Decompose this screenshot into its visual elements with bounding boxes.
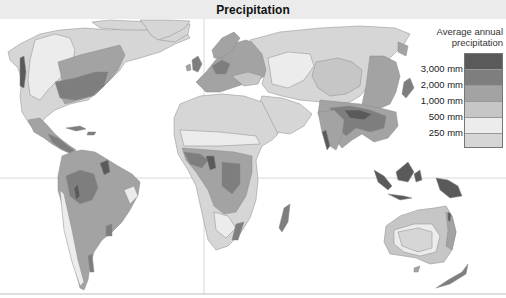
legend-title-line1: Average annual [418, 26, 503, 37]
legend-swatches [464, 53, 503, 148]
map-title: Precipitation [216, 2, 290, 17]
title-bar: Precipitation [0, 0, 506, 19]
indonesia [374, 162, 462, 200]
legend-title: Average annual precipitation [418, 26, 504, 48]
legend-body: 3,000 mm 2,000 mm 1,000 mm 500 mm 250 mm [418, 53, 504, 145]
swatch-500-1000 [465, 102, 502, 118]
legend-title-line2: precipitation [418, 37, 503, 48]
precipitation-legend: Average annual precipitation 3,000 mm 2,… [418, 26, 504, 145]
swatch-250-500 [465, 118, 502, 134]
legend-label-3000: 3,000 mm [421, 63, 463, 74]
legend-label-500: 500 mm [429, 111, 463, 122]
swatch-over-3000 [465, 54, 502, 70]
north-america [8, 20, 190, 154]
south-america [58, 150, 140, 290]
swatch-1000-2000 [465, 86, 502, 102]
swatch-2000-3000 [465, 70, 502, 86]
legend-label-2000: 2,000 mm [421, 79, 463, 90]
legend-label-250: 250 mm [429, 127, 463, 138]
swatch-under-250 [465, 134, 502, 147]
australia [384, 206, 468, 288]
caribbean-islands [66, 126, 96, 135]
legend-label-1000: 1,000 mm [421, 95, 463, 106]
